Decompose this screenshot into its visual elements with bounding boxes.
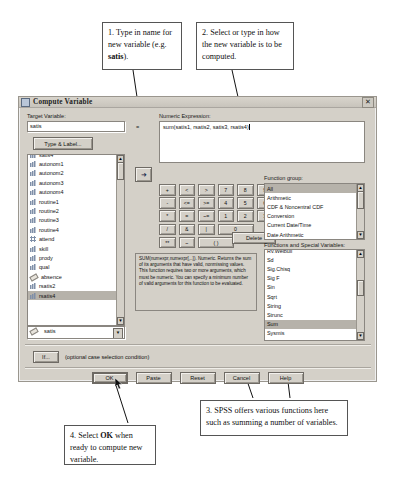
keypad-key-[interactable]: < bbox=[179, 184, 196, 196]
scroll-down-icon[interactable]: ▼ bbox=[357, 332, 364, 340]
cancel-button[interactable]: Cancel bbox=[224, 372, 260, 384]
callout-4-pre: 4. Select bbox=[70, 431, 100, 440]
bar-icon bbox=[30, 283, 36, 289]
functions-item[interactable]: Sig.Chisq bbox=[265, 264, 357, 273]
scroll-thumb[interactable] bbox=[357, 191, 364, 209]
variable-list-item-label: routine4 bbox=[39, 227, 59, 233]
scroll-thumb[interactable] bbox=[357, 280, 364, 296]
variable-list-item[interactable]: prody bbox=[28, 253, 117, 262]
bar-icon bbox=[30, 255, 36, 261]
reset-button[interactable]: Reset bbox=[180, 372, 216, 384]
text-caret bbox=[249, 124, 250, 130]
variable-list-item[interactable]: autonom4 bbox=[28, 188, 117, 197]
keypad-key-7[interactable]: 7 bbox=[218, 184, 235, 196]
equals-sign: = bbox=[136, 124, 139, 130]
variable-list-item-label: routine2 bbox=[39, 208, 59, 214]
function-group-list[interactable]: AllArithmeticCDF & Noncentral CDFConvers… bbox=[264, 183, 365, 240]
function-group-item[interactable]: CDF & Noncentral CDF bbox=[265, 202, 364, 211]
move-to-expression-button[interactable]: ➜ bbox=[135, 167, 152, 182]
keypad-key-1[interactable]: 1 bbox=[218, 210, 235, 222]
variable-list-item[interactable]: autonom3 bbox=[28, 178, 117, 187]
variable-list-item[interactable]: attend bbox=[28, 235, 117, 244]
if-button[interactable]: If... bbox=[33, 351, 59, 363]
function-group-label: Function group: bbox=[264, 175, 303, 181]
scroll-down-icon[interactable]: ▼ bbox=[117, 317, 124, 325]
functions-item[interactable]: String bbox=[265, 301, 357, 310]
dialog-titlebar[interactable]: Compute Variable ✕ bbox=[19, 97, 376, 108]
functions-item[interactable]: Sig F bbox=[265, 274, 357, 283]
function-group-scrollbar[interactable]: ▲ ▼ bbox=[356, 184, 364, 239]
keypad-key-[interactable]: >= bbox=[198, 197, 215, 209]
variable-list-item[interactable]: autonom2 bbox=[28, 169, 117, 178]
variable-list-item[interactable]: skill bbox=[28, 244, 117, 253]
keypad-key-8[interactable]: 8 bbox=[237, 184, 254, 196]
target-variable-input[interactable]: satis bbox=[27, 121, 125, 132]
paste-button[interactable]: Paste bbox=[136, 372, 172, 384]
keypad-key-[interactable]: <= bbox=[179, 197, 196, 209]
variable-list-item-label: prody bbox=[39, 255, 53, 261]
bar-icon bbox=[30, 180, 36, 186]
scroll-down-icon[interactable]: ▼ bbox=[357, 231, 364, 239]
bar-icon bbox=[30, 227, 36, 233]
function-group-item[interactable]: Current Date/Time bbox=[265, 221, 364, 230]
divider bbox=[25, 367, 371, 369]
variable-list-item[interactable]: rsatis4 bbox=[28, 291, 117, 300]
function-group-item[interactable]: Date Arithmetic bbox=[265, 230, 364, 239]
variable-list-item-label: routine1 bbox=[39, 199, 59, 205]
close-icon[interactable]: ✕ bbox=[362, 97, 374, 108]
functions-item[interactable]: Sin bbox=[265, 283, 357, 292]
variable-list-item[interactable]: autonom1 bbox=[28, 159, 117, 168]
functions-item[interactable]: Time.Days bbox=[265, 338, 357, 341]
variable-list-item[interactable]: routine4 bbox=[28, 225, 117, 234]
help-button[interactable]: Help bbox=[268, 372, 304, 384]
functions-item[interactable]: Sqrt bbox=[265, 292, 357, 301]
variable-list-item[interactable]: absence bbox=[28, 272, 117, 281]
variable-list-scrollbar[interactable]: ▲ ▼ bbox=[116, 155, 124, 325]
chevron-down-icon[interactable]: ▼ bbox=[113, 328, 123, 339]
if-caption: (optional case selection condition) bbox=[65, 354, 149, 360]
keypad-key-[interactable]: * bbox=[159, 210, 176, 222]
variable-list-item-label: autonom4 bbox=[39, 189, 63, 195]
functions-items[interactable]: Rv.WeibullSdSig.ChisqSig FSinSqrtStringS… bbox=[265, 249, 357, 341]
variable-list-item[interactable]: routine2 bbox=[28, 206, 117, 215]
keypad-key-5[interactable]: 5 bbox=[237, 197, 254, 209]
keypad-key-4[interactable]: 4 bbox=[218, 197, 235, 209]
function-group-item[interactable]: Conversion bbox=[265, 212, 364, 221]
variable-list[interactable]: satis4autonom1autonom2autonom3autonom4ro… bbox=[27, 154, 125, 326]
keypad-key-[interactable]: ( ) bbox=[198, 237, 234, 249]
variable-list-item[interactable]: rsatis2 bbox=[28, 281, 117, 290]
variable-list-bottom-field[interactable]: satis ▼ bbox=[27, 326, 125, 339]
scroll-thumb[interactable] bbox=[117, 162, 124, 180]
functions-list[interactable]: Rv.WeibullSdSig.ChisqSig FSinSqrtStringS… bbox=[264, 249, 365, 341]
keypad-key-[interactable]: - bbox=[159, 197, 176, 209]
keypad-key-[interactable]: ~ bbox=[179, 237, 196, 249]
function-group-item[interactable]: All bbox=[265, 184, 364, 193]
function-group-items[interactable]: AllArithmeticCDF & Noncentral CDFConvers… bbox=[265, 184, 364, 239]
variable-list-item-label: attend bbox=[39, 236, 54, 242]
type-and-label-button[interactable]: Type & Label... bbox=[33, 137, 93, 150]
variable-list-items[interactable]: satis4autonom1autonom2autonom3autonom4ro… bbox=[28, 154, 117, 300]
keypad-key-[interactable]: ** bbox=[159, 237, 176, 249]
keypad-key-[interactable]: / bbox=[159, 224, 176, 236]
numeric-expression-label: Numeric Expression: bbox=[159, 113, 211, 119]
numeric-expression-input[interactable]: sum(satis1, rsatis2, satis3, rsatis4) bbox=[159, 121, 365, 163]
scroll-up-icon[interactable]: ▲ bbox=[357, 250, 364, 258]
variable-list-item[interactable]: routine3 bbox=[28, 216, 117, 225]
keypad-key-[interactable]: & bbox=[179, 224, 196, 236]
function-group-item[interactable]: Arithmetic bbox=[265, 193, 364, 202]
keypad-key-[interactable]: ~= bbox=[198, 210, 215, 222]
functions-item[interactable]: Sysmis bbox=[265, 329, 357, 338]
keypad-key-[interactable]: > bbox=[198, 184, 215, 196]
keypad-key-[interactable]: = bbox=[179, 210, 196, 222]
functions-item[interactable]: Sum bbox=[265, 320, 357, 329]
keypad-key-[interactable]: + bbox=[159, 184, 176, 196]
functions-scrollbar[interactable]: ▲ ▼ bbox=[356, 250, 364, 340]
functions-item[interactable]: Sd bbox=[265, 255, 357, 264]
callout-2: 2. Select or type in how the new variabl… bbox=[196, 22, 294, 70]
keypad-key-2[interactable]: 2 bbox=[237, 210, 254, 222]
variable-list-item[interactable]: routine1 bbox=[28, 197, 117, 206]
functions-item[interactable]: Strunc bbox=[265, 310, 357, 319]
variable-list-item[interactable]: qual bbox=[28, 263, 117, 272]
compute-variable-dialog: Compute Variable ✕ Target Variable: sati… bbox=[18, 96, 377, 382]
keypad-key-[interactable]: | bbox=[198, 224, 215, 236]
